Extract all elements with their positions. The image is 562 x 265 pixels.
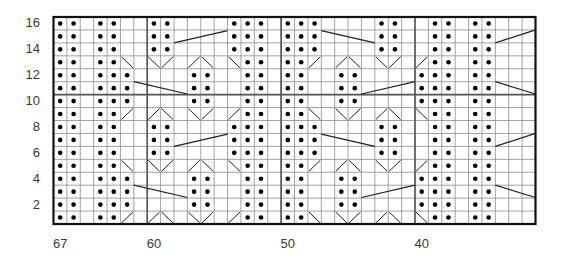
purl-dot-icon [58,151,63,156]
purl-dot-icon [339,86,344,91]
decrease-right-icon [376,109,387,120]
purl-dot-icon [379,125,384,130]
decrease-left-icon [309,212,320,223]
purl-dot-icon [433,151,438,156]
purl-dot-icon [473,86,478,91]
purl-dot-icon [232,151,237,156]
purl-dot-icon [393,125,398,130]
purl-dot-icon [486,86,491,91]
purl-dot-icon [446,47,451,52]
purl-dot-icon [299,176,304,181]
purl-dot-icon [111,73,116,78]
purl-dot-icon [433,47,438,52]
purl-dot-icon [152,138,157,143]
purl-dot-icon [259,138,264,143]
purl-dot-icon [71,202,76,207]
decrease-right-icon [389,57,400,68]
purl-dot-icon [286,21,291,26]
decrease-right-icon [349,109,360,120]
purl-dot-icon [312,125,317,130]
purl-dot-icon [473,112,478,117]
purl-dot-icon [205,189,210,194]
purl-dot-icon [299,151,304,156]
purl-dot-icon [379,34,384,39]
purl-dot-icon [245,176,250,181]
purl-dot-icon [286,73,291,78]
stitch-label: 40 [415,237,429,251]
cable-line [495,133,535,146]
purl-dot-icon [58,112,63,117]
purl-dot-icon [71,47,76,52]
row-label: 4 [10,172,40,186]
purl-dot-icon [111,60,116,65]
purl-dot-icon [98,60,103,65]
decrease-left-icon [121,160,132,171]
purl-dot-icon [393,138,398,143]
decrease-right-icon [416,57,427,68]
purl-dot-icon [245,125,250,130]
purl-dot-icon [446,60,451,65]
purl-dot-icon [192,99,197,104]
knitting-chart: 161412108642 67605040 [0,0,562,265]
purl-dot-icon [71,151,76,156]
purl-dot-icon [473,21,478,26]
purl-dot-icon [473,34,478,39]
purl-dot-icon [111,163,116,168]
purl-dot-icon [486,189,491,194]
purl-dot-icon [98,99,103,104]
row-label: 10 [10,94,40,108]
decrease-right-icon [336,57,347,68]
purl-dot-icon [165,138,170,143]
purl-dot-icon [286,125,291,130]
purl-dot-icon [125,176,130,181]
purl-dot-icon [473,189,478,194]
purl-dot-icon [259,189,264,194]
decrease-right-icon [229,109,240,120]
purl-dot-icon [259,202,264,207]
purl-dot-icon [98,86,103,91]
purl-dot-icon [393,34,398,39]
purl-dot-icon [393,151,398,156]
purl-dot-icon [352,99,357,104]
purl-dot-icon [473,215,478,220]
purl-dot-icon [71,189,76,194]
purl-dot-icon [259,176,264,181]
purl-dot-icon [259,125,264,130]
purl-dot-icon [111,34,116,39]
purl-dot-icon [486,34,491,39]
purl-dot-icon [205,86,210,91]
cable-line [495,82,535,94]
decrease-right-icon [202,109,213,120]
purl-dot-icon [433,34,438,39]
decrease-left-icon [188,109,199,120]
purl-dot-icon [286,34,291,39]
decrease-left-icon [416,109,427,120]
purl-dot-icon [111,86,116,91]
decrease-right-icon [389,160,400,171]
purl-dot-icon [299,202,304,207]
purl-dot-icon [152,34,157,39]
purl-dot-icon [245,60,250,65]
purl-dot-icon [245,151,250,156]
purl-dot-icon [446,34,451,39]
purl-dot-icon [205,202,210,207]
purl-dot-icon [58,47,63,52]
purl-dot-icon [245,189,250,194]
purl-dot-icon [339,73,344,78]
purl-dot-icon [205,99,210,104]
purl-dot-icon [312,47,317,52]
purl-dot-icon [286,215,291,220]
purl-dot-icon [152,125,157,130]
purl-dot-icon [473,176,478,181]
purl-dot-icon [299,34,304,39]
purl-dot-icon [352,73,357,78]
purl-dot-icon [71,215,76,220]
cable-line [495,185,535,197]
decrease-left-icon [162,109,173,120]
purl-dot-icon [165,125,170,130]
purl-dot-icon [245,47,250,52]
decrease-left-icon [309,109,320,120]
purl-dot-icon [473,138,478,143]
purl-dot-icon [111,21,116,26]
purl-dot-icon [379,138,384,143]
